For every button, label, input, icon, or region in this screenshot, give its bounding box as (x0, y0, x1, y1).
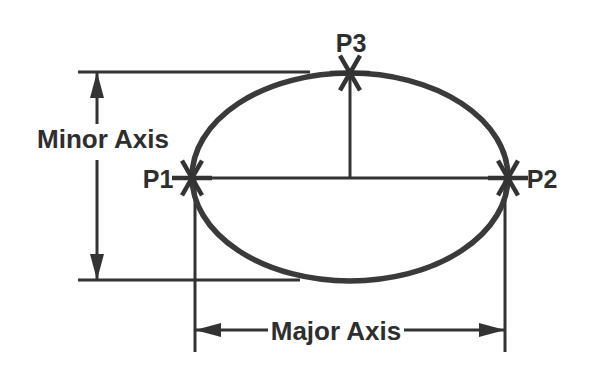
point-label-p1: P1 (143, 165, 174, 193)
ellipse-axis-diagram: P1P2P3Minor AxisMajor Axis (0, 0, 593, 372)
major-axis-label: Major Axis (271, 316, 402, 346)
point-label-p3: P3 (336, 29, 367, 57)
minor-axis-label: Minor Axis (37, 124, 169, 154)
point-label-p2: P2 (527, 165, 558, 193)
diagram-canvas: P1P2P3Minor AxisMajor Axis (0, 0, 593, 372)
